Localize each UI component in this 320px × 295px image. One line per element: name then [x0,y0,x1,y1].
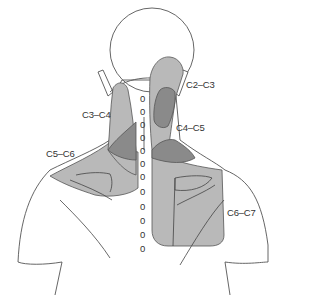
vertebra-marker: 0 [140,201,145,212]
vertebra-marker: 0 [140,215,145,226]
vertebra-marker: 0 [140,132,145,143]
zone-c6-c7 [152,150,224,246]
vertebra-marker: 0 [140,145,145,156]
label-c6-c7: C6–C7 [227,207,256,218]
label-c5-c6: C5–C6 [46,148,75,159]
vertebra-marker: 0 [140,229,145,240]
vertebra-marker: 0 [140,106,145,117]
left-scapula-line-3 [60,200,110,258]
vertebra-marker: 0 [140,243,145,254]
label-c2-c3: C2–C3 [186,79,215,90]
label-c3-c4: C3–C4 [82,109,111,120]
vertebra-marker: 0 [140,93,145,104]
vertebra-marker: 0 [140,171,145,182]
vertebra-marker: 0 [140,158,145,169]
left-ear [98,70,113,96]
vertebra-marker: 0 [140,186,145,197]
vertebra-marker: 0 [140,119,145,130]
label-c4-c5: C4–C5 [176,122,205,133]
